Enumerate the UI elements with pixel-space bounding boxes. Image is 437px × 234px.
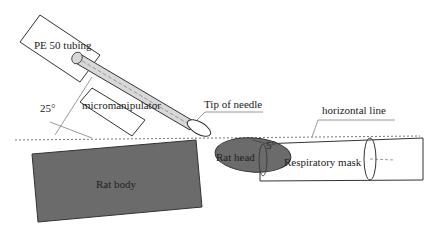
needle-tip (185, 116, 214, 139)
tip-of-needle-label: Tip of needle (204, 99, 262, 110)
angle-25-label: 25° (40, 103, 55, 114)
respiratory-mask-label: Respiratory mask (284, 157, 361, 168)
rat-body-label: Rat body (96, 179, 136, 190)
horizontal-line-label: horizontal line (322, 105, 386, 116)
horizontal-leader (312, 120, 395, 137)
horizontal-line (15, 136, 420, 140)
diagram-canvas (0, 0, 437, 234)
angle-5-label: 5° (266, 140, 276, 151)
rat-head-label: Rat head (216, 152, 255, 163)
tip-leader (197, 112, 263, 120)
micromanipulator-label: micromanipulator (82, 100, 161, 111)
angle-arc-line (50, 122, 92, 138)
pe-tubing-label: PE 50 tubing (34, 40, 91, 51)
